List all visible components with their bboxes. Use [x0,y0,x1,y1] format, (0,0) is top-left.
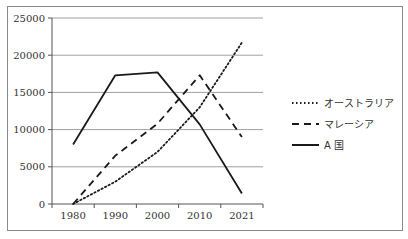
legend-label: オーストラリア [324,98,394,109]
y-tick-label: 25000 [13,13,45,24]
y-tick-label: 0 [39,199,45,210]
y-tick-label: 15000 [13,87,45,98]
x-tick-label: 1980 [60,210,85,221]
x-tick-label: 1990 [103,210,128,221]
gridlines [52,18,263,167]
legend-label: A 国 [324,140,344,151]
y-tick-label: 20000 [13,50,45,61]
x-tick-label: 2000 [145,210,170,221]
series-line [73,75,242,204]
y-tick-label: 10000 [13,124,45,135]
line-chart: 0500010000150002000025000 19801990200020… [0,0,408,239]
legend-label: マレーシア [324,119,374,130]
x-axis-ticks: 19801990200020102021 [52,204,263,221]
y-axis-ticks: 0500010000150002000025000 [13,13,52,210]
series-line [73,43,242,204]
legend: オーストラリアマレーシアA 国 [292,98,394,151]
series-lines [73,43,242,204]
y-tick-label: 5000 [20,161,45,172]
x-tick-label: 2010 [187,210,212,221]
x-tick-label: 2021 [229,210,254,221]
